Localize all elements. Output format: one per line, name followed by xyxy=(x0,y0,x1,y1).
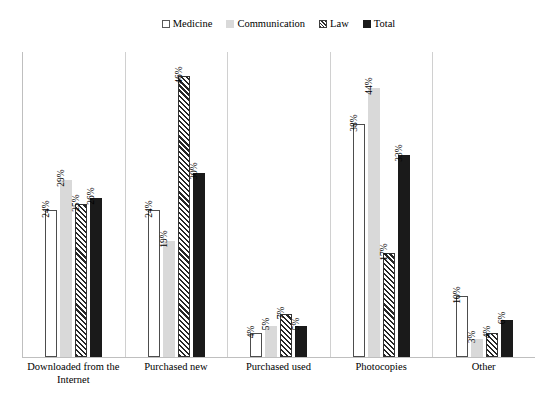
category-label-0: Downloaded from the Internet xyxy=(22,360,125,386)
legend-label-total: Total xyxy=(374,18,395,30)
bar-group-2: 4%5%7%5% xyxy=(228,52,331,357)
legend-swatch-total-icon xyxy=(363,20,371,28)
category-label-4: Other xyxy=(432,360,535,386)
bar-value-label: 4% xyxy=(246,325,256,338)
bar-slot-law: 7% xyxy=(280,52,292,357)
bar-slot-total: 26% xyxy=(90,52,102,357)
bar-slot-law: 4% xyxy=(486,52,498,357)
bar-group-0: 24%29%25%26% xyxy=(23,52,126,357)
bar-slot-law: 17% xyxy=(383,52,395,357)
bar-slot-total: 6% xyxy=(501,52,513,357)
bar-value-label: 24% xyxy=(144,200,154,217)
bar-value-label: 33% xyxy=(394,144,404,161)
bar-law[interactable]: 4% xyxy=(486,333,498,358)
bar-value-label: 44% xyxy=(364,77,374,94)
legend-swatch-law-icon xyxy=(319,20,327,28)
bar-group-4: 10%3%4%6% xyxy=(433,52,535,357)
legend-label-law: Law xyxy=(330,18,349,30)
bar-value-label: 29% xyxy=(56,169,66,186)
bar-value-label: 5% xyxy=(261,318,271,331)
bar-value-label: 3% xyxy=(467,330,477,343)
bar-value-label: 25% xyxy=(71,194,81,211)
bar-slot-medicine: 24% xyxy=(148,52,160,357)
bar-communication[interactable]: 3% xyxy=(471,339,483,357)
legend-swatch-communication-icon xyxy=(226,20,234,28)
bar-group-bars: 38%44%17%33% xyxy=(331,52,433,357)
bar-law[interactable]: 25% xyxy=(75,204,87,357)
bar-group-1: 24%19%46%30% xyxy=(126,52,229,357)
bar-value-label: 10% xyxy=(452,286,462,303)
legend-label-communication: Communication xyxy=(237,18,305,30)
bar-slot-total: 33% xyxy=(398,52,410,357)
bar-value-label: 26% xyxy=(86,187,96,204)
legend-item-total: Total xyxy=(363,18,395,30)
bar-medicine[interactable]: 24% xyxy=(45,210,57,357)
category-label-2: Purchased used xyxy=(227,360,330,386)
bar-groups: 24%29%25%26%24%19%46%30%4%5%7%5%38%44%17… xyxy=(23,52,535,357)
bar-law[interactable]: 46% xyxy=(178,76,190,358)
legend-label-medicine: Medicine xyxy=(173,18,213,30)
bar-slot-medicine: 38% xyxy=(353,52,365,357)
bar-law[interactable]: 17% xyxy=(383,253,395,357)
bar-value-label: 24% xyxy=(41,200,51,217)
legend-item-communication: Communication xyxy=(226,18,305,30)
bar-total[interactable]: 33% xyxy=(398,155,410,357)
bar-value-label: 30% xyxy=(189,163,199,180)
bar-total[interactable]: 6% xyxy=(501,320,513,357)
bar-group-bars: 4%5%7%5% xyxy=(228,52,330,357)
bar-group-bars: 10%3%4%6% xyxy=(433,52,535,357)
bar-slot-total: 5% xyxy=(295,52,307,357)
bar-communication[interactable]: 19% xyxy=(163,241,175,357)
bar-communication[interactable]: 44% xyxy=(368,88,380,357)
bar-value-label: 4% xyxy=(482,325,492,338)
category-label-1: Purchased new xyxy=(125,360,228,386)
bar-slot-medicine: 10% xyxy=(456,52,468,357)
legend-item-law: Law xyxy=(319,18,349,30)
bar-slot-medicine: 4% xyxy=(250,52,262,357)
category-axis: Downloaded from the InternetPurchased ne… xyxy=(22,360,535,386)
bar-total[interactable]: 30% xyxy=(193,173,205,357)
bar-slot-medicine: 24% xyxy=(45,52,57,357)
bar-total[interactable]: 26% xyxy=(90,198,102,357)
bar-slot-communication: 19% xyxy=(163,52,175,357)
chart-legend: Medicine Communication Law Total xyxy=(0,18,557,30)
bar-value-label: 19% xyxy=(159,230,169,247)
bar-value-label: 5% xyxy=(291,318,301,331)
bar-value-label: 46% xyxy=(174,66,184,83)
bar-group-bars: 24%29%25%26% xyxy=(23,52,125,357)
bar-group-3: 38%44%17%33% xyxy=(331,52,434,357)
bar-medicine[interactable]: 4% xyxy=(250,333,262,358)
bar-chart: Medicine Communication Law Total 24%29%2… xyxy=(0,0,557,404)
legend-swatch-medicine-icon xyxy=(162,20,170,28)
bar-slot-communication: 44% xyxy=(368,52,380,357)
bar-medicine[interactable]: 10% xyxy=(456,296,468,357)
bar-total[interactable]: 5% xyxy=(295,326,307,357)
bar-value-label: 6% xyxy=(497,312,507,325)
category-label-3: Photocopies xyxy=(330,360,433,386)
legend-item-medicine: Medicine xyxy=(162,18,213,30)
bar-value-label: 38% xyxy=(349,115,359,132)
bar-group-bars: 24%19%46%30% xyxy=(126,52,228,357)
bar-slot-total: 30% xyxy=(193,52,205,357)
bar-value-label: 7% xyxy=(276,307,286,320)
plot-area: 24%29%25%26%24%19%46%30%4%5%7%5%38%44%17… xyxy=(22,52,535,358)
bar-value-label: 17% xyxy=(379,243,389,260)
bar-slot-law: 46% xyxy=(178,52,190,357)
bar-medicine[interactable]: 38% xyxy=(353,124,365,357)
bar-communication[interactable]: 5% xyxy=(265,326,277,357)
bar-slot-communication: 3% xyxy=(471,52,483,357)
